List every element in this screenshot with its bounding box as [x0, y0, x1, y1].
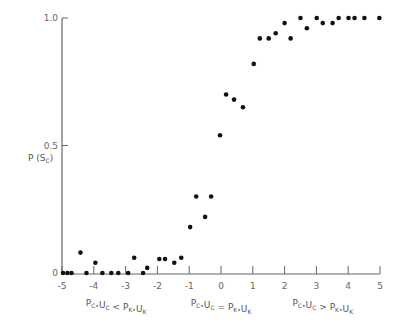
x-tick-label: -3: [121, 281, 130, 291]
data-point: [100, 271, 105, 276]
y-axis-label: P (SC): [28, 153, 53, 164]
x-tick-label: 2: [282, 281, 288, 291]
data-point: [224, 92, 229, 97]
data-point: [273, 31, 278, 36]
data-point: [93, 261, 98, 266]
x-tick-label: 4: [345, 281, 351, 291]
x-tick-label: 0: [218, 281, 224, 291]
x-tick-label: -2: [153, 281, 162, 291]
data-point: [69, 271, 74, 276]
data-point: [257, 36, 262, 41]
data-point: [305, 26, 310, 31]
x-tick-label: -1: [185, 281, 194, 291]
data-point: [346, 16, 351, 21]
data-point: [141, 271, 146, 276]
x-tick-label: 3: [314, 281, 320, 291]
data-point: [288, 36, 293, 41]
data-point: [84, 271, 89, 276]
x-tick-label: -5: [58, 281, 67, 291]
data-point: [330, 21, 335, 26]
axes: 00.51.0-5-4-3-2-1012345: [44, 13, 383, 291]
data-point: [352, 16, 357, 21]
scatter-chart: 00.51.0-5-4-3-2-1012345 P (SC)PC•UC < PK…: [0, 0, 401, 326]
data-point: [179, 255, 184, 260]
y-tick-label: 0.5: [44, 141, 58, 151]
data-point: [218, 133, 223, 138]
data-point: [232, 97, 237, 102]
data-point: [203, 215, 208, 220]
y-tick-label: 0: [52, 268, 58, 278]
data-point: [362, 16, 367, 21]
region-label: PC•UC > PK•UK: [292, 298, 354, 315]
data-point: [61, 271, 66, 276]
data-point: [163, 257, 168, 262]
data-point: [314, 16, 319, 21]
y-tick-label: 1.0: [44, 13, 59, 23]
data-point: [282, 21, 287, 26]
data-point: [126, 271, 131, 276]
data-point: [172, 261, 177, 266]
x-tick-label: 1: [250, 281, 256, 291]
data-point: [65, 271, 70, 276]
data-points: [61, 16, 382, 276]
data-point: [188, 225, 193, 230]
data-point: [377, 16, 382, 21]
x-tick-label: -4: [89, 281, 98, 291]
data-point: [109, 271, 114, 276]
data-point: [78, 250, 83, 255]
data-point: [116, 271, 121, 276]
data-point: [132, 255, 137, 260]
data-point: [298, 16, 303, 21]
data-point: [194, 194, 199, 199]
data-point: [241, 105, 246, 110]
x-tick-label: 5: [377, 281, 383, 291]
data-point: [266, 36, 271, 41]
data-point: [251, 62, 256, 67]
data-point: [157, 257, 162, 262]
data-point: [145, 266, 150, 271]
region-label: PC•UC < PK•UK: [86, 298, 148, 315]
data-point: [209, 194, 214, 199]
region-label: PC•UC = PK•UK: [191, 298, 253, 315]
data-point: [336, 16, 341, 21]
data-point: [320, 21, 325, 26]
